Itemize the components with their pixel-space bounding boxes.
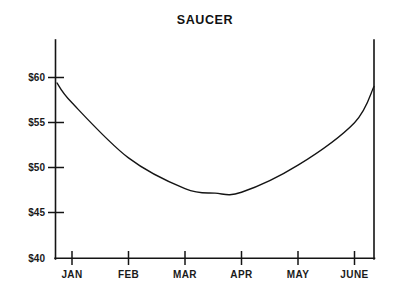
saucer-line-chart: SAUCER $60 $55 $50 $45 $40 xyxy=(0,0,395,300)
x-tick-label-mar: MAR xyxy=(173,269,197,280)
y-tick-label-50: $50 xyxy=(28,162,45,173)
y-axis-tick-labels: $60 $55 $50 $45 $40 xyxy=(28,72,45,264)
x-tick-label-jan: JAN xyxy=(61,269,82,280)
x-tick-label-june: JUNE xyxy=(340,269,368,280)
y-tick-label-55: $55 xyxy=(28,117,45,128)
chart-title: SAUCER xyxy=(177,13,233,27)
x-tick-label-apr: APR xyxy=(230,269,253,280)
y-tick-label-60: $60 xyxy=(28,72,45,83)
chart-container: SAUCER $60 $55 $50 $45 $40 xyxy=(0,0,395,300)
data-curve-price xyxy=(57,83,374,195)
y-tick-label-45: $45 xyxy=(28,207,45,218)
y-tick-label-40: $40 xyxy=(28,253,45,264)
x-tick-label-may: MAY xyxy=(287,269,310,280)
x-tick-label-feb: FEB xyxy=(118,269,139,280)
x-axis-tick-labels: JAN FEB MAR APR MAY JUNE xyxy=(61,269,368,280)
